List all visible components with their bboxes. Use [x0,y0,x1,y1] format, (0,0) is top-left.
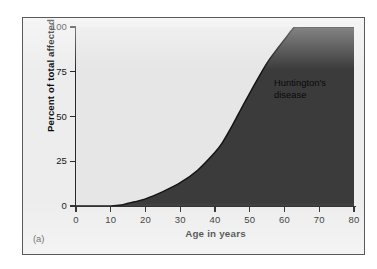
y-tick-label: 25 [41,155,67,166]
panel-caption: (a) [33,233,44,244]
y-tick-label: 0 [41,200,67,211]
x-tick-label: 10 [99,214,123,225]
x-tick-label: 70 [307,214,331,225]
x-tick-label: 40 [203,214,227,225]
x-tick [214,207,215,212]
y-axis-line [75,26,76,208]
huntingtons-disease-annotation: Huntington's disease [274,77,326,100]
x-tick [75,207,76,212]
x-tick [249,207,250,212]
x-tick [180,207,181,212]
x-tick-label: 30 [168,214,192,225]
y-tick [70,116,75,117]
figure-frame: 0255075100 01020304050607080 Percent of … [22,17,365,255]
y-tick [70,161,75,162]
y-axis-title: Percent of total affected [45,1,56,151]
y-tick [70,71,75,72]
x-tick [110,207,111,212]
x-tick [284,207,285,212]
x-tick-label: 50 [238,214,262,225]
x-tick-label: 60 [273,214,297,225]
x-tick-label: 80 [342,214,366,225]
y-tick [70,205,75,206]
x-tick [145,207,146,212]
plot-area [76,27,354,206]
x-tick [353,207,354,212]
x-tick-label: 0 [64,214,88,225]
area-chart-svg [76,27,354,206]
x-tick [319,207,320,212]
x-axis-title: Age in years [75,228,356,239]
y-tick [70,26,75,27]
x-tick-label: 20 [134,214,158,225]
